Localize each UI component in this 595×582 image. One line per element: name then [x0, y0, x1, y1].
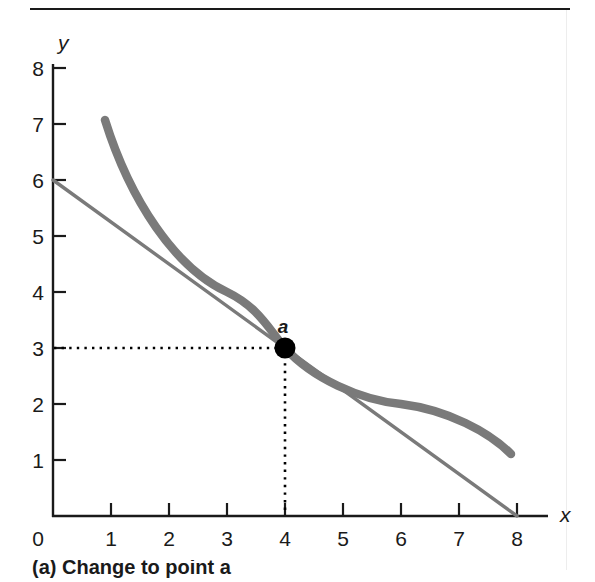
y-axis-title: y	[56, 31, 70, 54]
y-tick-labels: 8 7 6 5 4 3 2 1	[32, 57, 44, 472]
indifference-curve-series	[105, 120, 511, 454]
x-tick-label-7: 7	[453, 527, 465, 550]
y-tick-label-7: 7	[32, 113, 44, 136]
y-tick-label-3: 3	[32, 337, 44, 360]
axes-group	[52, 64, 548, 517]
x-tick-label-8: 8	[511, 527, 523, 550]
y-tick-label-4: 4	[32, 281, 44, 304]
x-axis-ticks	[111, 503, 517, 516]
figure-caption-clip: (a) Change to point a	[0, 560, 595, 582]
x-tick-label-3: 3	[221, 527, 233, 550]
point-a-marker	[275, 338, 296, 359]
y-tick-label-5: 5	[32, 225, 44, 248]
y-tick-label-1: 1	[32, 449, 44, 472]
origin-label: 0	[32, 527, 44, 550]
x-tick-label-4: 4	[279, 527, 291, 550]
y-axis-ticks	[53, 68, 66, 460]
chart-plot: 8 7 6 5 4 3 2 1 0 1 2 3 4 5 6 7 8 y x	[0, 0, 595, 560]
x-axis-title: x	[559, 503, 572, 526]
figure-root: 8 7 6 5 4 3 2 1 0 1 2 3 4 5 6 7 8 y x	[0, 0, 595, 582]
x-tick-label-1: 1	[105, 527, 117, 550]
figure-caption: (a) Change to point a	[32, 560, 231, 579]
x-tick-labels: 1 2 3 4 5 6 7 8	[105, 527, 523, 550]
y-tick-label-8: 8	[32, 57, 44, 80]
x-tick-label-5: 5	[337, 527, 349, 550]
point-a-label: a	[278, 316, 289, 337]
y-tick-label-2: 2	[32, 393, 44, 416]
x-tick-label-6: 6	[395, 527, 407, 550]
y-tick-label-6: 6	[32, 169, 44, 192]
x-tick-label-2: 2	[163, 527, 175, 550]
